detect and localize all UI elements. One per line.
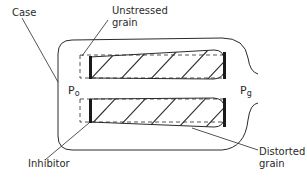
- inhibitor-label: Inhibitor: [28, 158, 71, 169]
- lower-grain: [88, 96, 235, 128]
- inhibitor-bars: [89, 52, 226, 127]
- case-label: Case: [12, 7, 36, 18]
- rocket-motor-grain-diagram: Case Unstressed grain Po Pg Inhibitor Di…: [0, 0, 307, 178]
- distorted-grain-label-line2: grain: [259, 158, 285, 169]
- pg-label: Pg: [240, 84, 252, 98]
- unstressed-grain-label-line2: grain: [112, 17, 138, 28]
- unstressed-grain-label-line1: Unstressed: [112, 5, 168, 16]
- unstressed-grain-outline: [80, 55, 223, 122]
- p0-label: Po: [68, 84, 80, 98]
- distorted-grain-label-line1: Distorted: [259, 146, 305, 157]
